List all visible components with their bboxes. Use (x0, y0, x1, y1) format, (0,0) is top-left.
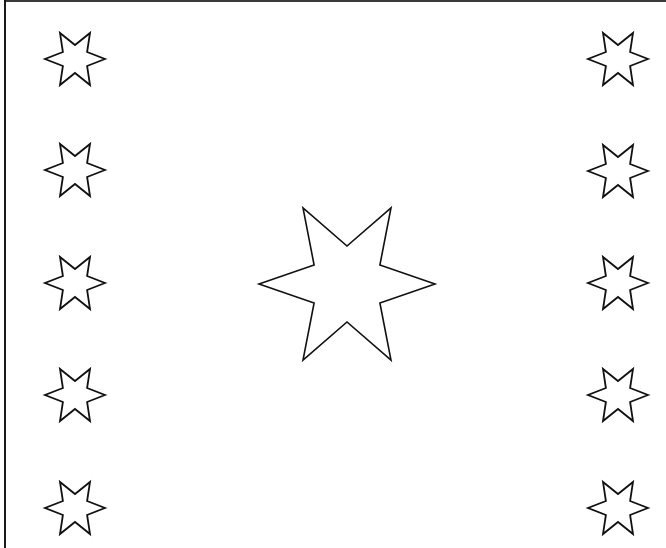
left-star-icon-5 (45, 482, 105, 534)
left-star-icon-3 (45, 257, 105, 309)
left-star-icon-2 (45, 144, 105, 196)
right-star-icon-4 (588, 369, 648, 421)
left-star-icon-1 (45, 33, 105, 85)
right-star-icon-5 (588, 482, 648, 534)
right-star-icon-2 (588, 145, 648, 197)
right-star-icon-1 (588, 33, 648, 85)
central-star-icon (259, 208, 435, 360)
stars-layer (0, 0, 666, 548)
right-star-icon-3 (588, 257, 648, 309)
star-figure-canvas (0, 0, 666, 548)
left-star-icon-4 (45, 369, 105, 421)
